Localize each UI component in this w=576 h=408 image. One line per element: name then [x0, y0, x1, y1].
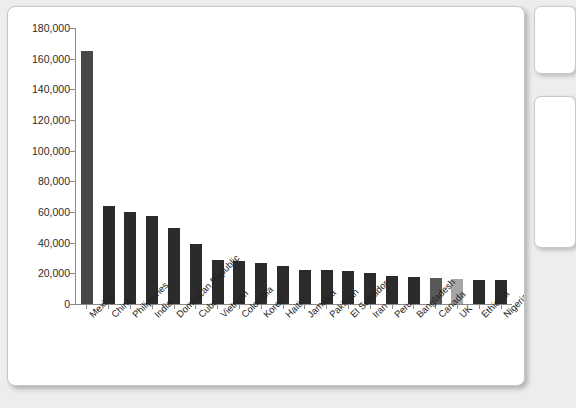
x-axis-label-slot: Mexico — [81, 310, 93, 380]
y-axis-tick-label: 40,000 — [38, 238, 70, 248]
x-axis-label-slot: Jamaica — [299, 310, 311, 380]
bar — [103, 206, 115, 304]
x-axis-label-slot: UK — [451, 310, 463, 380]
x-axis-label-slot: Vietnam — [212, 310, 224, 380]
x-axis-label-slot: Cuba — [190, 310, 202, 380]
x-axis-label-slot: Bangladesh — [408, 310, 420, 380]
x-axis-label-slot: Nigeria — [495, 310, 507, 380]
bar — [299, 270, 311, 305]
bar — [408, 277, 420, 304]
bar — [124, 212, 136, 304]
y-axis-tick-label: 100,000 — [32, 146, 70, 156]
background-panel-top — [534, 6, 576, 74]
background-panel-bottom — [534, 96, 576, 248]
x-axis-label-slot: Canada — [430, 310, 442, 380]
x-axis-label-slot: India — [146, 310, 158, 380]
x-axis-label-slot: Korea — [255, 310, 267, 380]
x-axis-label-slot: El Salvador — [342, 310, 354, 380]
y-axis-tick-label: 140,000 — [32, 84, 70, 94]
bars-container — [76, 28, 512, 304]
bar — [81, 51, 93, 304]
bar — [168, 228, 180, 304]
x-axis-tick-mark — [392, 305, 393, 309]
y-axis-tick-label: 80,000 — [38, 176, 70, 186]
x-axis-label-slot: Philippines — [124, 310, 136, 380]
bar — [386, 276, 398, 304]
x-axis-tick-mark — [86, 305, 87, 309]
x-axis-label-slot: Pakistan — [321, 310, 333, 380]
y-axis-tick-label: 60,000 — [38, 207, 70, 217]
bar — [473, 280, 485, 304]
y-axis-labels: 180,000160,000140,000120,000100,00080,00… — [18, 7, 70, 385]
y-axis-tick-label: 120,000 — [32, 115, 70, 125]
y-axis-tick-label: 180,000 — [32, 23, 70, 33]
x-axis-label-slot: Iran — [364, 310, 376, 380]
y-axis-tick-label: 20,000 — [38, 268, 70, 278]
bar-chart: 180,000160,000140,000120,000100,00080,00… — [8, 7, 524, 385]
x-axis-label-slot: Colombia — [233, 310, 245, 380]
chart-panel: 180,000160,000140,000120,000100,00080,00… — [7, 6, 525, 386]
x-axis-labels: MexicoChinaPhilippinesIndiaDominican Rep… — [76, 310, 512, 380]
x-axis-label-slot: Ethiopia — [473, 310, 485, 380]
x-axis-tick-mark — [479, 305, 480, 309]
x-axis-label-slot: Haiti — [277, 310, 289, 380]
x-axis-tick-mark — [304, 305, 305, 309]
x-axis-label-slot: Dominican Republic — [168, 310, 180, 380]
y-axis-tick-label: 160,000 — [32, 54, 70, 64]
x-axis-label-slot: Peru — [386, 310, 398, 380]
x-axis-label-slot: China — [103, 310, 115, 380]
